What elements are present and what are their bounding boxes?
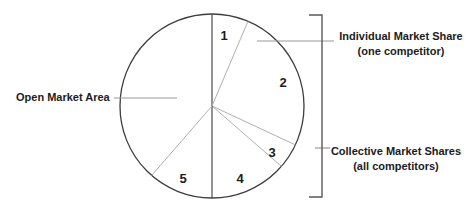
pie-divider-23deg <box>212 21 248 106</box>
pie-divider-115deg <box>212 106 295 145</box>
collective-market-shares-label: Collective Market Shares (all competitor… <box>330 144 462 174</box>
segment-label-5: 5 <box>179 171 186 186</box>
individual-market-share-label: Individual Market Share (one competitor) <box>335 29 467 59</box>
individual-market-share-title: Individual Market Share <box>335 29 467 44</box>
individual-market-share-subtitle: (one competitor) <box>335 44 467 59</box>
segment-label-4: 4 <box>236 171 244 186</box>
open-market-area-label: Open Market Area <box>16 90 110 105</box>
segment-label-1: 1 <box>220 28 227 43</box>
pie-divider-221deg <box>152 106 212 175</box>
collective-market-shares-subtitle: (all competitors) <box>330 159 462 174</box>
collective-market-shares-title: Collective Market Shares <box>330 144 462 159</box>
collective-bracket <box>309 15 322 197</box>
segment-label-3: 3 <box>268 145 275 160</box>
market-share-pie-diagram: 12345 Open Market Area Individual Market… <box>0 0 473 205</box>
segment-label-2: 2 <box>279 75 286 90</box>
